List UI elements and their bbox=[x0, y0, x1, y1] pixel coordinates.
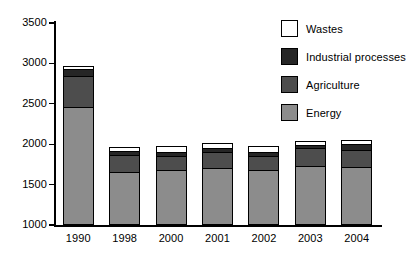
bar-segment-energy-2001[interactable] bbox=[202, 168, 233, 225]
chart-legend: WastesIndustrial processesAgricultureEne… bbox=[281, 16, 417, 128]
legend-swatch-icon bbox=[281, 76, 298, 93]
legend-item-label: Energy bbox=[306, 107, 341, 119]
bar-segment-agriculture-2000[interactable] bbox=[156, 156, 187, 170]
bar-segment-energy-2000[interactable] bbox=[156, 170, 187, 225]
bar-segment-agriculture-2002[interactable] bbox=[248, 156, 279, 171]
bar-segment-agriculture-2004[interactable] bbox=[341, 150, 372, 167]
x-axis-tick-label: 2002 bbox=[238, 232, 290, 244]
bar-2000[interactable] bbox=[156, 146, 187, 225]
bar-segment-energy-1998[interactable] bbox=[109, 172, 140, 225]
y-axis-tick-label: 3000 bbox=[3, 57, 47, 68]
x-axis-line bbox=[54, 225, 382, 227]
legend-swatch-icon bbox=[281, 104, 298, 121]
legend-item-agriculture[interactable]: Agriculture bbox=[281, 72, 417, 97]
y-axis-tick-label: 1500 bbox=[3, 179, 47, 190]
bar-segment-energy-2003[interactable] bbox=[295, 166, 326, 225]
bar-1998[interactable] bbox=[109, 147, 140, 225]
bar-segment-energy-2002[interactable] bbox=[248, 170, 279, 225]
stacked-bar-chart: 100015002000250030003500 199019982000200… bbox=[0, 0, 419, 258]
bar-2004[interactable] bbox=[341, 140, 372, 225]
bar-segment-energy-2004[interactable] bbox=[341, 167, 372, 225]
legend-item-wastes[interactable]: Wastes bbox=[281, 16, 417, 41]
legend-item-label: Industrial processes bbox=[306, 51, 406, 63]
y-axis-tick-label: 3500 bbox=[3, 17, 47, 28]
x-axis-tick-label: 2001 bbox=[192, 232, 244, 244]
bar-2003[interactable] bbox=[295, 141, 326, 225]
y-axis-tick-label: 2500 bbox=[3, 98, 47, 109]
x-axis-tick-label: 2004 bbox=[331, 232, 383, 244]
bar-segment-agriculture-2001[interactable] bbox=[202, 152, 233, 168]
legend-item-label: Wastes bbox=[306, 23, 343, 35]
bar-1990[interactable] bbox=[63, 66, 94, 225]
bar-2001[interactable] bbox=[202, 143, 233, 225]
bar-segment-agriculture-1998[interactable] bbox=[109, 155, 140, 173]
x-axis-tick-label: 2000 bbox=[145, 232, 197, 244]
bar-segment-agriculture-1990[interactable] bbox=[63, 76, 94, 106]
legend-item-label: Agriculture bbox=[306, 79, 360, 91]
bar-2002[interactable] bbox=[248, 146, 279, 225]
legend-item-industrial-processes[interactable]: Industrial processes bbox=[281, 44, 417, 69]
y-axis-tick-label: 1000 bbox=[3, 219, 47, 230]
legend-item-energy[interactable]: Energy bbox=[281, 100, 417, 125]
x-axis-tick-label: 2003 bbox=[284, 232, 336, 244]
legend-swatch-icon bbox=[281, 48, 298, 65]
y-axis-tick-labels: 100015002000250030003500 bbox=[0, 0, 47, 258]
x-axis-tick-label: 1990 bbox=[52, 232, 104, 244]
bar-segment-industrial-processes-1990[interactable] bbox=[63, 69, 94, 76]
bar-segment-agriculture-2003[interactable] bbox=[295, 148, 326, 167]
bar-segment-energy-1990[interactable] bbox=[63, 107, 94, 225]
y-axis-tick-label: 2000 bbox=[3, 138, 47, 149]
x-axis-tick-label: 1998 bbox=[99, 232, 151, 244]
legend-swatch-icon bbox=[281, 20, 298, 37]
